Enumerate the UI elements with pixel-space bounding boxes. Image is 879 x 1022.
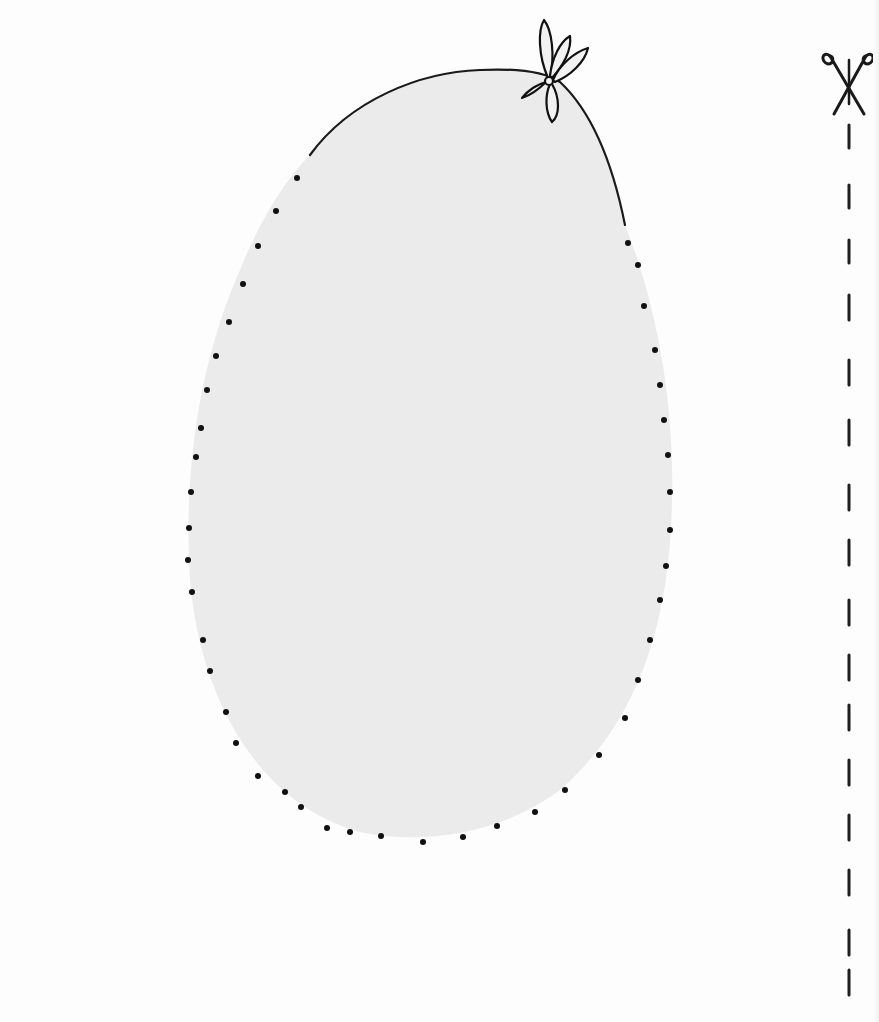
trace-dot bbox=[189, 589, 195, 595]
trace-dot bbox=[324, 825, 330, 831]
trace-dot bbox=[494, 823, 500, 829]
trace-dot bbox=[185, 557, 191, 563]
trace-dot bbox=[240, 281, 246, 287]
trace-dot bbox=[663, 563, 669, 569]
trace-dot bbox=[657, 382, 663, 388]
trace-dot bbox=[186, 525, 192, 531]
trace-dot bbox=[282, 789, 288, 795]
trace-dot bbox=[347, 829, 353, 835]
trace-dot bbox=[596, 752, 602, 758]
scissors-icon[interactable] bbox=[823, 54, 873, 114]
trace-dot bbox=[652, 347, 658, 353]
trace-dot bbox=[193, 454, 199, 460]
trace-dot bbox=[298, 804, 304, 810]
trace-dot bbox=[273, 208, 279, 214]
trace-dot bbox=[532, 809, 538, 815]
trace-dot bbox=[200, 637, 206, 643]
balloon-shape bbox=[188, 70, 672, 838]
trace-dot bbox=[223, 709, 229, 715]
trace-dot bbox=[188, 489, 194, 495]
trace-dot bbox=[635, 677, 641, 683]
trace-dot bbox=[647, 637, 653, 643]
trace-dot bbox=[661, 417, 667, 423]
trace-dot bbox=[562, 787, 568, 793]
trace-dot bbox=[204, 387, 210, 393]
balloon-illustration bbox=[0, 0, 879, 1022]
trace-dot bbox=[378, 833, 384, 839]
trace-dot bbox=[667, 527, 673, 533]
trace-dot bbox=[641, 303, 647, 309]
trace-dot bbox=[226, 319, 232, 325]
trace-dot bbox=[665, 452, 671, 458]
trace-dot bbox=[294, 175, 300, 181]
trace-dot bbox=[233, 740, 239, 746]
trace-dot bbox=[213, 353, 219, 359]
trace-dot bbox=[255, 773, 261, 779]
trace-dot bbox=[207, 668, 213, 674]
trace-dot bbox=[420, 839, 426, 845]
trace-dot bbox=[657, 597, 663, 603]
trace-dot bbox=[625, 240, 631, 246]
trace-dot bbox=[255, 243, 261, 249]
page-edge-shadow bbox=[873, 0, 879, 1022]
template-page bbox=[0, 0, 879, 1022]
trace-dot bbox=[622, 715, 628, 721]
trace-dot bbox=[198, 425, 204, 431]
trace-dot bbox=[667, 489, 673, 495]
trace-dot bbox=[460, 834, 466, 840]
trace-dot bbox=[635, 262, 641, 268]
